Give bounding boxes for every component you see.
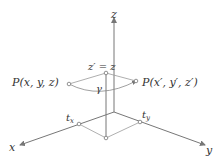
angle-label: γ [96, 83, 102, 94]
z-equality-label: z′ = z [87, 61, 116, 72]
rotation-arc [69, 81, 136, 91]
ty-label: ty [142, 109, 151, 122]
radius-p-prime [106, 73, 136, 81]
y-axis [114, 112, 205, 145]
point-ty [138, 120, 142, 124]
tx-label: tx [66, 112, 74, 125]
y-axis-label: y [205, 144, 213, 157]
x-axis-label: x [9, 141, 16, 154]
rotation-diagram: z x y P(x, y, z) P(x′, y′, z′) z′ = z γ … [0, 0, 224, 167]
p-original-label: P(x, y, z) [11, 76, 59, 89]
point-tx [77, 122, 81, 126]
p-rotated-label: P(x′, y′, z′) [141, 76, 198, 89]
point-bottom [104, 136, 108, 140]
xy-projection [79, 122, 140, 138]
point-p-prime [134, 79, 138, 83]
point-p [67, 82, 71, 86]
z-axis-label: z [110, 8, 117, 21]
